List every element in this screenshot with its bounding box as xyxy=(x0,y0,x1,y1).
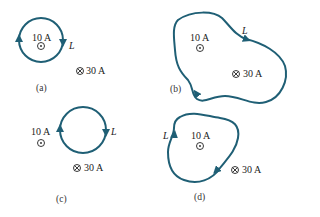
panel-a-current-out-label: 10 A xyxy=(32,33,51,43)
panel-c-current-in-label: 30 A xyxy=(84,163,103,173)
panel-b-current-out-symbol xyxy=(197,45,204,52)
panel-c-current-out-label: 10 A xyxy=(31,127,50,137)
panel-d-current-in-symbol xyxy=(232,167,239,174)
panel-b-loop-label: L xyxy=(242,26,248,36)
panel-c-loop xyxy=(60,107,106,153)
panel-c-current-out-symbol xyxy=(38,140,45,147)
panel-a-current-out-symbol xyxy=(38,43,45,50)
panel-d-caption: (d) xyxy=(194,193,205,203)
arrow-icon xyxy=(243,38,247,40)
panel-b-current-in-symbol xyxy=(233,71,240,78)
arrow-icon xyxy=(174,134,175,138)
panel-c-caption: (c) xyxy=(56,195,67,205)
panel-a-loop-label: L xyxy=(69,41,75,51)
arrow-icon xyxy=(196,93,198,96)
panel-b-current-out-label: 10 A xyxy=(190,33,209,43)
panel-a-current-in-symbol xyxy=(77,68,84,75)
panel-c-loop-label: L xyxy=(111,127,117,137)
panel-a-caption: (a) xyxy=(36,84,47,94)
panel-d-current-out-label: 10 A xyxy=(191,131,210,141)
panel-d-current-out-symbol xyxy=(197,143,204,150)
panel-b-caption: (b) xyxy=(170,85,181,95)
panel-b-current-in-label: 30 A xyxy=(243,69,262,79)
panel-d-current-in-label: 30 A xyxy=(242,165,261,175)
panel-b-loop xyxy=(174,13,286,103)
panel-a-current-in-label: 30 A xyxy=(86,66,105,76)
panel-c-current-in-symbol xyxy=(74,165,81,172)
panel-d-loop-label: L xyxy=(163,131,169,141)
